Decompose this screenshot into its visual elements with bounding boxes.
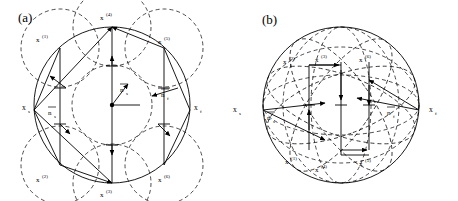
axis-label-right-xf: x xyxy=(194,103,198,112)
axis-label-right-xf-sub: f xyxy=(435,111,437,116)
svg-text:n: n xyxy=(387,109,391,117)
panel-b-graphic: x s x f n s n f x (2) x (3) xyxy=(229,0,458,201)
center-marker xyxy=(110,84,140,107)
svg-text:x: x xyxy=(315,56,319,64)
axis-label-left-xs: x xyxy=(233,105,237,114)
svg-text:s: s xyxy=(126,91,128,96)
svg-text:(2): (2) xyxy=(289,56,295,61)
svg-text:x: x xyxy=(285,158,289,166)
svg-text:x: x xyxy=(283,58,287,66)
figure-root: x s x f n s n f n s xyxy=(0,0,458,201)
svg-text:(3): (3) xyxy=(106,189,112,194)
svg-text:(1): (1) xyxy=(291,156,297,161)
svg-text:(2): (2) xyxy=(42,174,48,179)
svg-text:n: n xyxy=(120,86,124,94)
svg-text:x: x xyxy=(100,191,104,199)
point-label-a-1: x (1) xyxy=(36,34,48,44)
panel-a: x s x f n s n f n s xyxy=(0,0,229,201)
svg-text:x: x xyxy=(100,14,104,22)
svg-text:x: x xyxy=(359,56,363,64)
svg-text:x: x xyxy=(36,36,40,44)
panel-b: x s x f n s n f x (2) x (3) xyxy=(229,0,458,201)
svg-text:n: n xyxy=(48,109,52,117)
svg-text:x: x xyxy=(158,38,162,46)
panel-a-graphic: x s x f n s n f n s xyxy=(0,0,229,201)
svg-text:f: f xyxy=(393,114,395,119)
svg-text:n: n xyxy=(267,114,271,122)
svg-text:(5): (5) xyxy=(365,158,371,163)
panel-b-label: (b) xyxy=(262,12,277,28)
axis-label-right-xf-sub: f xyxy=(200,109,202,114)
svg-text:x: x xyxy=(36,176,40,184)
svg-text:(5): (5) xyxy=(164,36,170,41)
svg-text:s: s xyxy=(273,119,275,124)
svg-text:(1): (1) xyxy=(42,34,48,39)
axis-label-left-xs-sub: s xyxy=(239,111,241,116)
vector-label-ns-left: n s xyxy=(48,107,56,119)
point-label-a-3: x (3) xyxy=(100,189,112,199)
point-label-b-3: x (3) xyxy=(315,54,327,64)
point-label-a-5: x (5) xyxy=(158,36,170,46)
svg-text:s: s xyxy=(54,114,56,119)
axis-label-left-xs: x xyxy=(22,103,26,112)
svg-text:x: x xyxy=(359,160,363,168)
svg-text:(6): (6) xyxy=(365,54,371,59)
svg-text:x: x xyxy=(158,176,162,184)
point-label-a-4: x (4) xyxy=(100,12,112,22)
point-label-a-2: x (2) xyxy=(36,174,48,184)
point-label-a-6: x (6) xyxy=(158,174,170,184)
svg-text:f: f xyxy=(167,96,169,101)
axis-label-right-xf: x xyxy=(429,105,433,114)
axis-label-left-xs-sub: s xyxy=(28,109,30,114)
svg-text:x: x xyxy=(315,166,319,174)
point-label-b-4: x (4) xyxy=(315,164,327,174)
svg-text:(4): (4) xyxy=(106,12,112,17)
svg-text:(3): (3) xyxy=(321,54,327,59)
svg-text:n: n xyxy=(161,91,165,99)
panel-a-label: (a) xyxy=(18,10,32,26)
svg-text:(6): (6) xyxy=(164,174,170,179)
svg-text:(4): (4) xyxy=(321,164,327,169)
point-label-b-5: x (5) xyxy=(359,158,371,168)
